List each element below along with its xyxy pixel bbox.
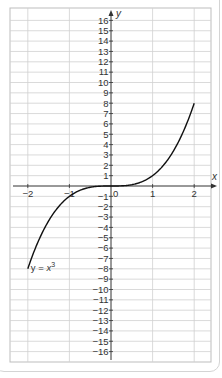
y-tick-label: −4 [98, 222, 109, 233]
y-tick-label: 16 [98, 15, 109, 26]
y-tick-label: −12 [92, 305, 108, 316]
y-tick-label: 11 [99, 66, 109, 77]
y-tick-label: −5 [98, 232, 109, 243]
x-axis-arrow-icon [211, 184, 217, 189]
y-tick-label: 14 [98, 35, 109, 46]
y-tick-label: −10 [92, 284, 108, 295]
y-tick-label: −16 [92, 346, 108, 357]
y-tick-label: −2 [98, 201, 109, 212]
y-tick-label: 15 [98, 25, 109, 36]
y-tick-label: 7 [103, 108, 108, 119]
y-tick-label: 5 [103, 129, 108, 140]
y-tick-label: −14 [92, 325, 108, 336]
x-tick-label: −2 [22, 188, 33, 199]
y-tick-label: 1 [103, 170, 108, 181]
x-tick-label: 2 [192, 188, 197, 199]
y-tick-label: 6 [103, 118, 108, 129]
y-axis-label: y [115, 8, 122, 19]
y-tick-label: −1 [98, 191, 109, 202]
y-tick-label: 2 [103, 160, 108, 171]
x-tick-label: 0 [113, 188, 118, 199]
y-tick-label: −8 [98, 263, 109, 274]
y-tick-label: −6 [98, 242, 109, 253]
cubic-graph: xy−16−15−14−13−12−11−10−9−8−7−6−5−4−3−2−… [0, 0, 222, 378]
y-tick-label: −7 [98, 253, 109, 264]
y-tick-label: −3 [98, 211, 109, 222]
x-axis-label: x [211, 171, 218, 182]
y-tick-label: 4 [103, 139, 108, 150]
y-tick-label: −11 [93, 294, 108, 305]
y-tick-label: 10 [98, 77, 109, 88]
y-tick-label: −13 [92, 315, 108, 326]
y-tick-label: 9 [103, 87, 108, 98]
x-tick-label: 1 [150, 188, 155, 199]
y-tick-label: 8 [103, 98, 108, 109]
y-tick-label: 12 [98, 56, 109, 67]
y-tick-label: 13 [98, 46, 109, 57]
y-tick-label: −15 [92, 336, 108, 347]
y-tick-label: 3 [103, 149, 108, 160]
y-tick-label: −9 [98, 273, 109, 284]
